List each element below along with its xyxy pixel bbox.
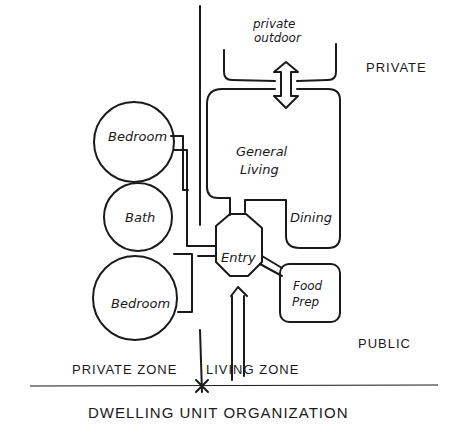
food-prep-connector	[260, 256, 282, 276]
private-outdoor-label-1: private	[252, 17, 295, 31]
food-prep-box	[280, 264, 340, 322]
living-zone-label: LIVING ZONE	[206, 362, 299, 377]
entry-label: Entry	[221, 250, 256, 265]
baseline	[30, 385, 438, 386]
private-outdoor-left	[224, 50, 275, 81]
dining-label: Dining	[290, 210, 332, 225]
private-label: PRIVATE	[366, 60, 427, 75]
zone-divider-lower	[200, 330, 202, 392]
general-living-label-1: General	[236, 144, 288, 159]
food-prep-label-2: Prep	[292, 295, 320, 309]
private-zone-label: PRIVATE ZONE	[72, 362, 177, 377]
general-living-label-2: Living	[240, 162, 279, 177]
corridor-b	[174, 150, 216, 246]
entry-hexagon	[216, 214, 262, 276]
diagram-title: DWELLING UNIT ORGANIZATION	[88, 404, 348, 421]
bath-label: Bath	[125, 210, 155, 225]
public-label: PUBLIC	[358, 336, 411, 351]
food-prep-label-1: Food	[293, 279, 323, 293]
bedroom-bottom-label: Bedroom	[111, 296, 170, 311]
dwelling-diagram: private outdoor PRIVATE General Living D…	[0, 0, 465, 427]
bedroom-top-label: Bedroom	[108, 129, 167, 144]
private-outdoor-label-2: outdoor	[254, 31, 302, 45]
private-outdoor-right	[297, 44, 336, 81]
double-arrow	[274, 62, 298, 108]
